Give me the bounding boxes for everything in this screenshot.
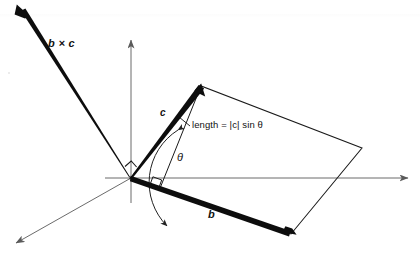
vector-b-cross-c	[15, 5, 132, 180]
label-vector-b: b	[208, 209, 215, 220]
vector-b-cross-c-arrowhead	[15, 5, 30, 19]
z-axis	[16, 178, 131, 243]
label-b-cross-c: b × c	[48, 38, 75, 49]
label-length-annotation: length = |c| sin θ	[192, 120, 263, 130]
vector-b	[130, 176, 297, 237]
label-vector-c: c	[160, 108, 166, 118]
vector-c-shaft	[129, 85, 204, 179]
vector-b-cross-c-shaft	[21, 9, 132, 180]
label-theta: θ	[177, 152, 183, 163]
figure-cross-product: b × c c b θ length = |c| sin θ	[0, 0, 420, 261]
perpendicular-height-line	[161, 86, 202, 187]
vector-c	[129, 83, 205, 179]
